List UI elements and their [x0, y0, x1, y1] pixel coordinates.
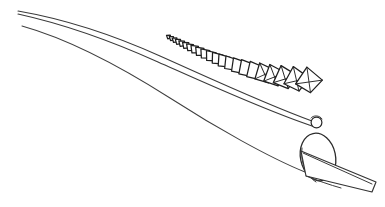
- line-drawing-svg: [0, 0, 385, 207]
- terminal-knob-circle: [311, 117, 322, 128]
- illustration-canvas: Line drawing of a curved stalk bearing a…: [0, 0, 385, 207]
